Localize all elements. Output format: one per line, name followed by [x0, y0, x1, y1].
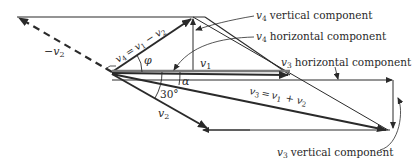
label-v3-equation: v3=v1+v2 — [248, 85, 308, 109]
phi-arc — [137, 55, 142, 72]
leader-v4-vertical — [196, 16, 254, 30]
leader-v3-vertical — [380, 98, 401, 150]
label-neg-v2: −v2 — [44, 45, 65, 59]
label-v3-horizontal: v3horizontal component — [281, 56, 412, 70]
label-phi: φ — [144, 54, 152, 67]
label-v1: v1 — [200, 57, 211, 71]
label-v3-vertical: v3vertical component — [277, 146, 394, 160]
label-v4-horizontal: v4horizontal component — [256, 30, 387, 44]
label-v4-equation: v4=v1−v2 — [113, 24, 168, 66]
vector-diagram: v4vertical component v4horizontal compon… — [0, 0, 420, 164]
neg-v2-vector — [19, 18, 112, 72]
leader-v3-horizontal — [335, 67, 338, 79]
label-alpha: α — [182, 75, 190, 88]
label-angle-30: 30° — [160, 88, 179, 100]
v1-vector — [112, 73, 288, 75]
label-v2: v2 — [158, 107, 169, 121]
v3-vector — [112, 74, 386, 130]
label-v4-vertical: v4vertical component — [256, 9, 373, 23]
